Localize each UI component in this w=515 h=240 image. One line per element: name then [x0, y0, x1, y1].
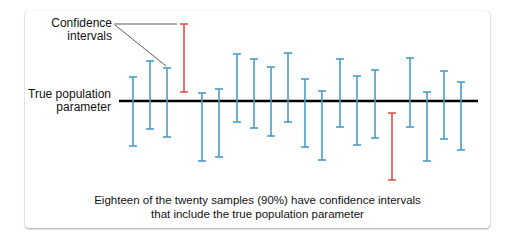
interval-including-parameter	[406, 58, 414, 127]
interval-including-parameter	[440, 71, 448, 139]
callout-pointer-to-blue-interval	[115, 25, 166, 66]
true-parameter-label-line2: parameter	[10, 101, 111, 114]
interval-including-parameter	[301, 79, 309, 147]
true-parameter-label: True population parameter	[10, 88, 111, 114]
interval-including-parameter	[215, 89, 223, 157]
interval-including-parameter	[336, 59, 344, 127]
caption-line1: Eighteen of the twenty samples (90%) hav…	[25, 194, 490, 208]
confidence-intervals-label-line2: intervals	[20, 30, 112, 43]
interval-including-parameter	[163, 68, 171, 137]
interval-including-parameter	[250, 59, 258, 128]
interval-including-parameter	[284, 53, 292, 122]
interval-including-parameter	[423, 92, 431, 161]
interval-including-parameter	[129, 77, 137, 146]
diagram-caption: Eighteen of the twenty samples (90%) hav…	[25, 194, 490, 221]
callout-pointers	[114, 24, 177, 66]
interval-including-parameter	[371, 70, 379, 138]
interval-including-parameter	[233, 54, 241, 122]
interval-missing-parameter	[388, 113, 396, 180]
interval-including-parameter	[457, 82, 465, 150]
caption-line2: that include the true population paramet…	[25, 208, 490, 222]
interval-missing-parameter	[180, 24, 188, 92]
interval-including-parameter	[198, 93, 206, 161]
interval-including-parameter	[146, 61, 154, 129]
confidence-intervals-label: Confidence intervals	[20, 17, 112, 43]
interval-including-parameter	[353, 76, 361, 145]
